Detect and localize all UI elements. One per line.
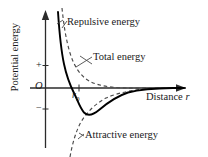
x-axis-title-text: Distance (146, 91, 185, 102)
r0-subscript: 0 (76, 95, 80, 103)
repulsive-energy-label: Repulsive energy (67, 17, 140, 28)
y-axis-title: Potential energy (10, 14, 21, 100)
attractive-energy-label: Attractive energy (85, 130, 158, 141)
potential-energy-diagram: Potential energy + O − r0 Distance r Rep… (0, 0, 208, 157)
y-axis-origin-label: O (35, 81, 43, 92)
x-axis-title-variable: r (185, 91, 189, 102)
y-axis (42, 10, 49, 148)
y-axis-negative-tick-label: − (36, 103, 42, 113)
total-energy-label: Total energy (93, 52, 145, 63)
y-axis-positive-tick-label: + (36, 60, 42, 70)
x-axis-title: Distance r (146, 92, 189, 103)
r0-tick-label: r0 (72, 90, 79, 103)
